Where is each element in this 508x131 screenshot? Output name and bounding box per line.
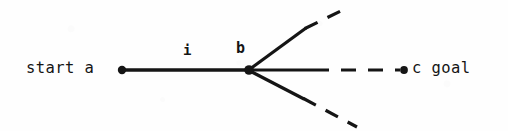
node-b [244,65,254,75]
start-label: start a [26,61,94,77]
edge-b-upper-dashed [305,7,349,29]
edge-b-lower-dashed [304,99,358,128]
figure-container: start a i b c goal [0,0,508,131]
node-label-b: b [236,41,245,56]
edge-b-upper-solid [250,28,306,69]
goal-label: c goal [412,61,470,77]
edge-label-i: i [183,43,192,57]
edge-b-lower-solid [250,71,304,99]
node-c-goal [400,66,408,74]
node-a-start [118,66,126,74]
